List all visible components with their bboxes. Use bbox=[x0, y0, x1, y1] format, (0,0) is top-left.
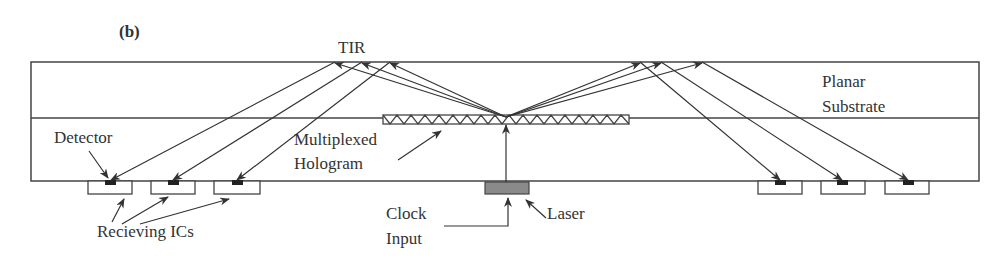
substrate-label: Substrate bbox=[822, 97, 885, 117]
tir-label: TIR bbox=[338, 38, 365, 58]
diffracted-beams-to-tir bbox=[335, 63, 702, 117]
planar-label: Planar bbox=[822, 72, 865, 92]
reflected-beams-to-detectors bbox=[111, 62, 908, 180]
receiving-ics-label: Recieving ICs bbox=[97, 222, 194, 242]
laser-source bbox=[485, 182, 529, 194]
hologram-label: Hologram bbox=[294, 154, 363, 174]
input-label: Input bbox=[386, 229, 422, 249]
panel-label: (b) bbox=[119, 22, 140, 42]
multiplexed-label: Multiplexed bbox=[294, 130, 377, 150]
laser-label: Laser bbox=[547, 204, 585, 224]
clock-label: Clock bbox=[386, 204, 427, 224]
detector-label: Detector bbox=[54, 128, 113, 148]
